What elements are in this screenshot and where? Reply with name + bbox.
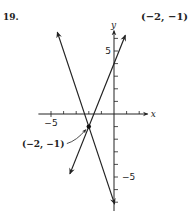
series-line-1	[57, 32, 114, 204]
intersection-point	[87, 124, 91, 128]
y-axis-label: y	[110, 20, 117, 30]
y-tick-label: −5	[122, 172, 135, 182]
x-axis-label: x	[151, 109, 156, 119]
y-tick-label: 5	[105, 46, 111, 56]
intersection-label: (−2, −1)	[22, 139, 64, 150]
x-tick-label: −5	[44, 118, 57, 128]
chart: −55−5 (−2, −1) x y	[0, 0, 191, 220]
